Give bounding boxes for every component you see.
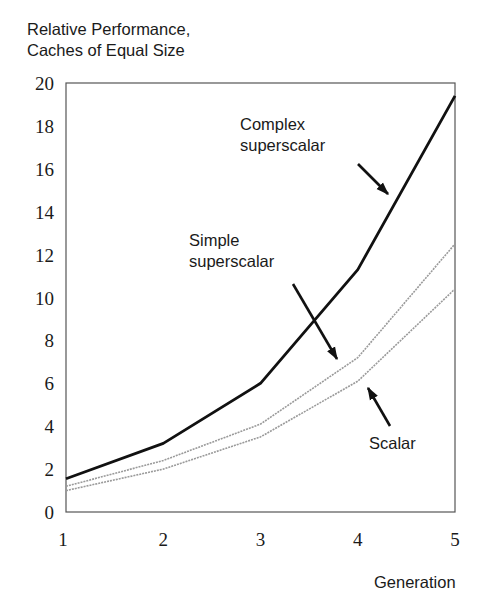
series-line-scalar [66,289,455,491]
annotation-simple-superscalar: Simple superscalar [189,231,275,270]
y-tick-label: 18 [35,116,54,137]
y-axis-tick-labels: 02468101214161820 [35,73,55,523]
series-lines [66,96,455,491]
x-tick-label: 1 [58,529,68,550]
y-tick-label: 2 [45,459,55,480]
annotation-complex-superscalar: Complex superscalar [240,115,326,154]
x-tick-label: 2 [159,529,169,550]
y-tick-label: 6 [45,373,55,394]
y-tick-label: 8 [45,330,55,351]
x-axis-label: Generation [374,573,456,591]
y-tick-label: 0 [45,502,55,523]
y-tick-label: 4 [45,416,55,437]
x-tick-label: 3 [256,529,266,550]
y-tick-label: 16 [35,159,54,180]
y-tick-label: 20 [35,73,54,94]
y-tick-label: 14 [35,202,55,223]
annotation-scalar: Scalar [369,434,416,452]
y-tick-label: 12 [35,245,54,266]
arrow-scalar [368,388,390,426]
x-axis-tick-labels: 12345 [58,529,460,550]
x-tick-label: 5 [450,529,460,550]
arrow-simple-superscalar [293,284,337,359]
x-tick-label: 4 [353,529,363,550]
chart-canvas: 02468101214161820 12345 Complex supersca… [0,0,490,606]
arrow-complex-superscalar [358,164,388,194]
y-tick-label: 10 [35,288,54,309]
